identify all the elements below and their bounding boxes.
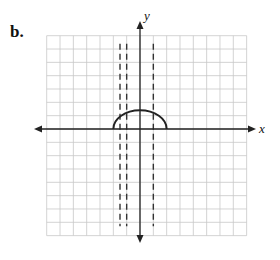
coordinate-plane: x y (0, 0, 280, 260)
x-axis-label: x (258, 121, 265, 136)
x-axis-left-arrow-icon (34, 126, 42, 133)
y-axis-up-arrow-icon (137, 21, 144, 29)
y-axis-label: y (142, 8, 150, 23)
grid (47, 36, 247, 236)
x-axis-right-arrow-icon (248, 126, 256, 133)
asymptotes (120, 44, 153, 227)
y-axis-down-arrow-icon (137, 235, 144, 243)
